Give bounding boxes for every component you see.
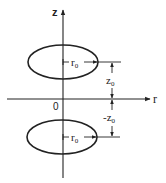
r-axis-label: r bbox=[153, 92, 157, 106]
z-axis-label: z bbox=[52, 6, 58, 18]
upper-radius-dimension: r0 bbox=[63, 56, 97, 70]
upper-offset-dimension: z0 bbox=[106, 63, 115, 98]
lower-ring: r0 -z0 bbox=[27, 100, 120, 154]
upper-offset-label: z0 bbox=[106, 74, 115, 88]
lower-offset-label: -z0 bbox=[103, 111, 116, 125]
z-axis: z bbox=[52, 6, 63, 178]
upper-radius-label: r0 bbox=[71, 56, 79, 70]
ring-diagram: z r 0 r0 z0 bbox=[0, 0, 166, 183]
upper-ring: r0 z0 bbox=[28, 45, 121, 98]
r-axis: r bbox=[7, 92, 157, 106]
origin-label: 0 bbox=[53, 101, 59, 112]
lower-radius-label: r0 bbox=[71, 131, 79, 145]
lower-offset-dimension: -z0 bbox=[103, 100, 116, 136]
lower-radius-dimension: r0 bbox=[63, 131, 96, 145]
